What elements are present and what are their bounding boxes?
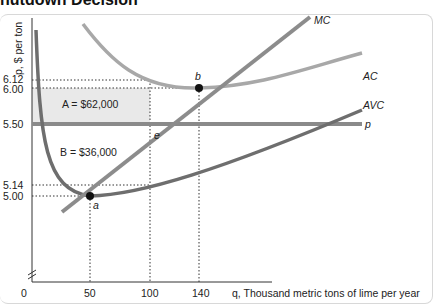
- point-e-label: e: [154, 129, 160, 141]
- x-tick-0: 0: [21, 287, 27, 299]
- point-b-label: b: [195, 70, 201, 82]
- x-axis-label: q, Thousand metric tons of lime per year: [232, 287, 420, 299]
- point-a-label: a: [93, 199, 99, 211]
- y-tick-500: 5.00: [3, 190, 24, 202]
- x-tick-140: 140: [192, 287, 210, 299]
- y-tick-600: 6.00: [3, 83, 24, 95]
- x-tick-100: 100: [141, 287, 159, 299]
- chart-canvas: 6.12 6.00 5.50 5.14 5.00 0 50 100 140 q,…: [0, 0, 435, 307]
- p-label: p: [364, 118, 371, 130]
- avc-label: AVC: [362, 99, 384, 111]
- ac-curve: [83, 24, 362, 88]
- y-axis-label: p, $ per ton: [12, 22, 24, 75]
- x-tick-50: 50: [84, 287, 96, 299]
- point-b: [195, 84, 203, 92]
- area-a-label: A = $62,000: [62, 98, 119, 110]
- y-tick-550: 5.50: [3, 118, 24, 130]
- mc-label: MC: [314, 14, 331, 26]
- area-b-label: B = $36,000: [60, 146, 117, 158]
- ac-label: AC: [362, 70, 378, 82]
